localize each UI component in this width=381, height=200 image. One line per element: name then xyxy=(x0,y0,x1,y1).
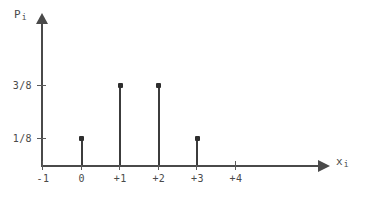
y-tick-mark xyxy=(37,85,46,86)
stem-line xyxy=(196,138,198,165)
y-tick-label: 1/8 xyxy=(13,133,32,144)
y-axis-line xyxy=(41,22,43,167)
y-axis-title-base: P xyxy=(14,8,21,21)
x-axis-title-base: x xyxy=(336,155,343,168)
x-tick-label: +2 xyxy=(152,173,165,184)
x-tick-label: +4 xyxy=(230,173,243,184)
stem-marker xyxy=(79,136,84,141)
y-axis-title-subscript: i xyxy=(22,13,27,22)
x-axis-title-subscript: i xyxy=(344,160,349,169)
stem-marker xyxy=(118,83,123,88)
y-axis-arrow-icon xyxy=(36,13,48,24)
x-tick-label: 0 xyxy=(78,173,84,184)
pmf-stem-plot: Pi xi 1/83/8 -10+1+2+3+4 xyxy=(0,0,381,200)
x-tick-label: -1 xyxy=(37,173,50,184)
stem-marker xyxy=(156,83,161,88)
x-axis-title: xi xyxy=(336,155,348,168)
x-axis-arrow-icon xyxy=(318,160,330,172)
y-axis-title: Pi xyxy=(14,8,26,21)
y-tick-label: 3/8 xyxy=(13,80,32,91)
x-tick-mark xyxy=(235,161,236,170)
stem-line xyxy=(158,85,160,165)
x-tick-label: +3 xyxy=(191,173,204,184)
x-tick-label: +1 xyxy=(114,173,127,184)
x-axis-line xyxy=(41,165,322,167)
stem-marker xyxy=(195,136,200,141)
stem-line xyxy=(81,138,83,165)
y-tick-mark xyxy=(37,138,46,139)
stem-line xyxy=(119,85,121,165)
x-tick-mark xyxy=(42,161,43,170)
